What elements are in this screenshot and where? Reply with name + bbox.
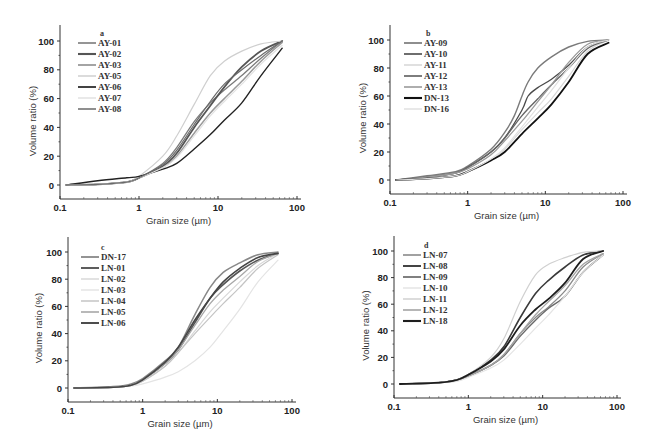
y-tick-label: 40	[373, 119, 384, 130]
legend-label: AY-10	[424, 49, 448, 59]
legend-label: AY-11	[424, 60, 447, 70]
legend-label: LN-03	[101, 285, 126, 295]
legend-label: AY-12	[424, 71, 448, 81]
x-tick-label: 0.1	[61, 405, 75, 416]
x-tick-label: 1	[466, 401, 472, 412]
x-tick-label: 10	[212, 405, 223, 416]
y-axis-title: Volume ratio (%)	[357, 83, 368, 153]
x-tick-label: 100	[284, 405, 300, 416]
y-tick-label: 60	[377, 299, 388, 310]
x-tick-label: 0.1	[387, 401, 401, 412]
x-tick-label: 0.1	[53, 202, 67, 213]
legend-label: LN-02	[101, 274, 126, 284]
legend-label: AY-13	[424, 82, 448, 92]
legend: cDN-17LN-01LN-02LN-03LN-04LN-05LN-06	[81, 243, 126, 328]
x-tick-label: 0.1	[383, 197, 397, 208]
y-tick-label: 0	[49, 180, 54, 191]
y-tick-label: 100	[46, 247, 62, 258]
y-tick-label: 0	[57, 383, 62, 394]
legend-label: AY-03	[98, 60, 122, 70]
grain-size-figure: 0204060801000.1110100Grain size (µm)Volu…	[0, 0, 655, 445]
x-tick-label: 10	[213, 202, 224, 213]
legend-label: LN-07	[423, 250, 448, 260]
x-tick-label: 1	[140, 405, 146, 416]
legend-label: LN-05	[101, 307, 126, 317]
legend-label: AY-06	[98, 82, 122, 92]
x-tick-label: 100	[615, 197, 631, 208]
legend: dLN-07LN-08LN-09LN-10LN-11LN-12LN-18	[403, 241, 448, 326]
x-tick-label: 10	[540, 197, 551, 208]
x-axis-title: Grain size (µm)	[473, 414, 538, 425]
panel-letter: a	[100, 29, 104, 38]
y-tick-label: 100	[368, 35, 384, 46]
legend-label: LN-18	[423, 316, 448, 326]
legend-label: AY-08	[98, 104, 122, 114]
y-tick-label: 80	[377, 272, 388, 283]
y-tick-label: 40	[377, 325, 388, 336]
chart-panel-a: 0204060801000.1110100Grain size (µm)Volu…	[27, 25, 305, 226]
x-tick-label: 100	[609, 401, 625, 412]
x-axis-title: Grain size (µm)	[146, 215, 211, 226]
x-tick-label: 1	[465, 197, 471, 208]
panel-letter: c	[101, 243, 105, 252]
x-axis-title: Grain size (µm)	[147, 418, 212, 429]
legend-label: LN-10	[423, 283, 448, 293]
legend-label: LN-04	[101, 296, 126, 306]
legend-label: LN-06	[101, 318, 126, 328]
y-tick-label: 40	[43, 122, 54, 133]
y-tick-label: 80	[43, 64, 54, 75]
legend: aAY-01AY-02AY-03AY-05AY-06AY-07AY-08	[78, 29, 122, 114]
y-tick-label: 60	[373, 91, 384, 102]
legend-label: LN-01	[101, 263, 126, 273]
x-tick-label: 100	[289, 202, 305, 213]
legend-label: AY-05	[98, 71, 122, 81]
legend-label: LN-12	[423, 305, 448, 315]
chart-panel-b: 0204060801000.1110100Grain size (µm)Volu…	[357, 25, 631, 221]
y-axis-title: Volume ratio (%)	[33, 293, 44, 363]
panel-letter: d	[424, 241, 429, 250]
y-tick-label: 100	[38, 36, 54, 47]
y-tick-label: 60	[43, 93, 54, 104]
chart-panel-d: 0204060801000.1110100Grain size (µm)Volu…	[360, 236, 625, 425]
y-tick-label: 20	[377, 352, 388, 363]
y-tick-label: 80	[373, 63, 384, 74]
chart-panel-c: 0204060801000.1110100Grain size (µm)Volu…	[33, 237, 300, 429]
legend-label: AY-07	[98, 93, 122, 103]
y-tick-label: 20	[373, 147, 384, 158]
y-tick-label: 0	[379, 175, 384, 186]
y-axis-title: Volume ratio (%)	[360, 290, 371, 360]
legend-label: AY-01	[98, 38, 122, 48]
y-tick-label: 0	[383, 379, 388, 390]
legend-label: AY-02	[98, 49, 122, 59]
legend-label: DN-16	[424, 104, 449, 114]
legend: bAY-09AY-10AY-11AY-12AY-13DN-13DN-16	[404, 29, 449, 114]
x-tick-label: 10	[537, 401, 548, 412]
legend-label: DN-13	[424, 93, 449, 103]
x-axis-title: Grain size (µm)	[474, 210, 539, 221]
y-tick-label: 100	[372, 246, 388, 257]
y-tick-label: 20	[43, 151, 54, 162]
legend-label: AY-09	[424, 38, 448, 48]
y-tick-label: 80	[51, 274, 62, 285]
y-tick-label: 20	[51, 355, 62, 366]
y-axis-title: Volume ratio (%)	[27, 86, 38, 156]
x-tick-label: 1	[136, 202, 142, 213]
legend-label: LN-11	[423, 294, 448, 304]
y-tick-label: 40	[51, 328, 62, 339]
panel-letter: b	[426, 29, 431, 38]
y-tick-label: 60	[51, 301, 62, 312]
legend-label: LN-09	[423, 272, 448, 282]
legend-label: DN-17	[101, 252, 126, 262]
legend-label: LN-08	[423, 261, 448, 271]
